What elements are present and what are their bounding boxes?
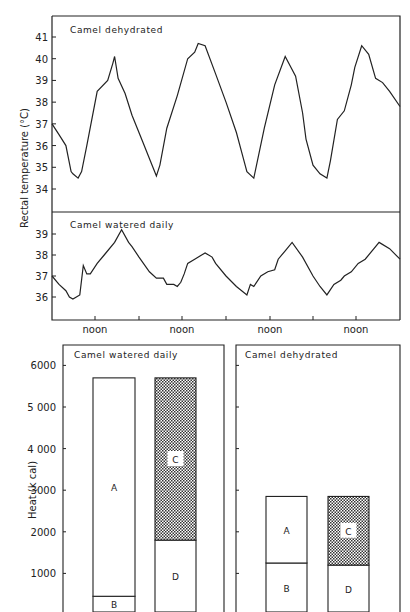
segment-label: D [345, 585, 352, 595]
heat-bar-charts: Heat (k cal) 1000200030004 0005 0006000 … [27, 345, 400, 612]
watered-y-axis-ticks: 36373839 [35, 229, 56, 303]
temperature-y-axis-label: Rectal temperature (°C) [19, 108, 30, 228]
dehydrated-heat-panel: Camel dehydrated BADC [236, 345, 400, 612]
y-tick-label: 39 [35, 75, 48, 86]
segment-label: A [283, 526, 290, 536]
watered-panel-title: Camel watered daily [70, 220, 174, 230]
y-tick-label: 41 [35, 32, 48, 43]
segment-label: B [111, 600, 117, 610]
y-tick-label: 1000 [31, 568, 56, 579]
bar-segment-C: C [328, 496, 369, 565]
y-tick-label: 37 [35, 271, 48, 282]
y-tick-label: 6000 [31, 360, 56, 371]
watered-heat-panel: Camel watered daily BADC [63, 345, 224, 612]
x-axis-labels: noon noon noon noon [83, 324, 369, 335]
dehydrated-bar-title: Camel dehydrated [245, 350, 338, 360]
bar-segment-A: A [93, 378, 135, 596]
y-tick-label: 4 000 [27, 444, 56, 455]
y-tick-label: 36 [35, 141, 48, 152]
watered-bar-title: Camel watered daily [74, 350, 178, 360]
segment-label: D [172, 572, 179, 582]
bar-segment-B: B [93, 596, 135, 612]
bar-segment-A: A [266, 496, 307, 563]
y-tick-label: 2000 [31, 527, 56, 538]
noon-label: noon [344, 324, 369, 335]
y-tick-label: 40 [35, 54, 48, 65]
y-tick-label: 37 [35, 119, 48, 130]
bar-segment-B: B [266, 563, 307, 612]
y-tick-label: 38 [35, 97, 48, 108]
noon-label: noon [170, 324, 195, 335]
y-tick-label: 36 [35, 292, 48, 303]
y-tick-label: 39 [35, 229, 48, 240]
dehydrated-y-axis-ticks: 3435363738394041 [35, 32, 56, 195]
temperature-chart: Camel dehydrated Camel watered daily 343… [19, 16, 400, 335]
dehydrated-temperature-line [52, 44, 400, 179]
segment-label: A [111, 483, 118, 493]
y-tick-label: 35 [35, 162, 48, 173]
dehydrated-panel-title: Camel dehydrated [70, 25, 163, 35]
noon-label: noon [83, 324, 108, 335]
watered-temperature-line [52, 230, 400, 299]
bar-segment-D: D [328, 565, 369, 612]
y-tick-label: 3000 [31, 485, 56, 496]
y-tick-label: 34 [35, 184, 48, 195]
bar-segment-C: C [155, 378, 196, 540]
noon-label: noon [258, 324, 283, 335]
bar-segment-D: D [155, 540, 196, 612]
segment-label: C [345, 527, 351, 537]
camel-thermoregulation-figure: Camel dehydrated Camel watered daily 343… [0, 0, 410, 612]
y-tick-label: 5 000 [27, 402, 56, 413]
segment-label: C [172, 455, 178, 465]
dehydrated-panel-frame [236, 345, 400, 612]
watered-panel-frame [63, 345, 224, 612]
segment-label: B [283, 584, 289, 594]
y-tick-label: 38 [35, 250, 48, 261]
